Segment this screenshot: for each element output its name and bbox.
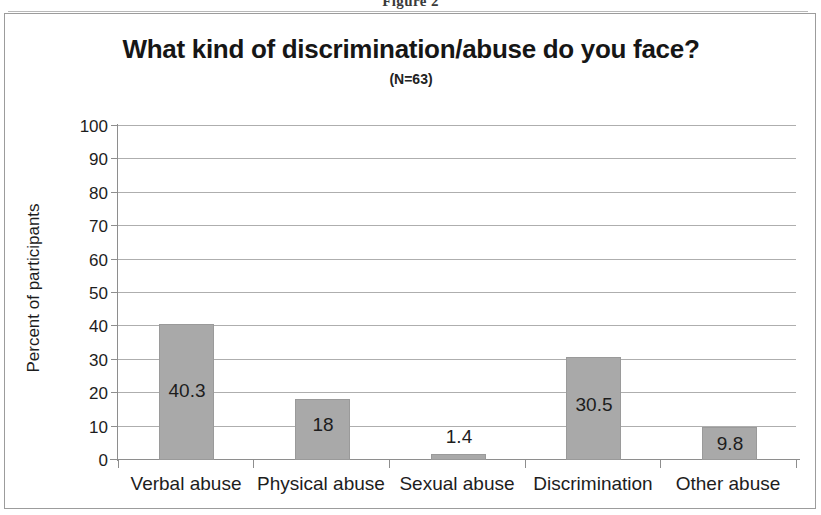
figure-caption: Figure 2	[0, 0, 821, 10]
gridline-90	[118, 158, 796, 159]
x-category-label-discrimination: Discrimination	[525, 474, 661, 493]
y-tick-label-10: 10	[52, 419, 108, 436]
y-tick-label-30: 30	[52, 352, 108, 369]
y-tick-mark-60	[111, 259, 118, 260]
y-tick-mark-70	[111, 225, 118, 226]
y-tick-label-50: 50	[52, 285, 108, 302]
x-category-label-verbal-abuse: Verbal abuse	[118, 474, 254, 493]
bar-value-other-abuse: 9.8	[692, 434, 768, 453]
y-tick-label-100: 100	[52, 118, 108, 135]
gridline-60	[118, 259, 796, 260]
x-tick-mark-5	[796, 460, 797, 468]
y-tick-mark-10	[111, 426, 118, 427]
x-category-label-other-abuse: Other abuse	[660, 474, 796, 493]
x-tick-mark-2	[389, 460, 390, 468]
chart-subtitle: (N=63)	[5, 71, 817, 87]
gridline-50	[118, 292, 796, 293]
bar-value-sexual-abuse: 1.4	[421, 427, 497, 446]
x-tick-mark-3	[525, 460, 526, 468]
y-tick-mark-30	[111, 359, 118, 360]
y-tick-mark-0	[111, 459, 118, 460]
x-category-label-physical-abuse: Physical abuse	[253, 474, 389, 493]
x-tick-mark-1	[253, 460, 254, 468]
bar-value-physical-abuse: 18	[285, 415, 361, 434]
gridline-70	[118, 225, 796, 226]
page-divider-rule	[8, 11, 808, 12]
y-tick-mark-40	[111, 325, 118, 326]
y-tick-mark-80	[111, 192, 118, 193]
gridline-100	[118, 125, 796, 126]
y-tick-label-40: 40	[52, 318, 108, 335]
y-tick-mark-20	[111, 392, 118, 393]
gridline-30	[118, 359, 796, 360]
y-axis-title: Percent of participants	[24, 168, 44, 408]
gridline-40	[118, 325, 796, 326]
bar-value-discrimination: 30.5	[556, 395, 632, 414]
y-tick-mark-50	[111, 292, 118, 293]
y-tick-mark-90	[111, 158, 118, 159]
y-tick-label-60: 60	[52, 252, 108, 269]
x-category-label-sexual-abuse: Sexual abuse	[389, 474, 525, 493]
y-tick-label-20: 20	[52, 385, 108, 402]
gridline-80	[118, 192, 796, 193]
y-tick-label-0: 0	[52, 452, 108, 469]
bar-sexual-abuse[interactable]	[431, 454, 486, 460]
y-tick-mark-100	[111, 125, 118, 126]
x-tick-mark-4	[660, 460, 661, 468]
bar-value-verbal-abuse: 40.3	[149, 381, 225, 400]
y-tick-label-90: 90	[52, 151, 108, 168]
chart-title: What kind of discrimination/abuse do you…	[5, 34, 817, 65]
x-tick-mark-0	[118, 460, 119, 468]
plot-area	[118, 125, 796, 459]
y-tick-label-80: 80	[52, 185, 108, 202]
y-tick-label-70: 70	[52, 218, 108, 235]
